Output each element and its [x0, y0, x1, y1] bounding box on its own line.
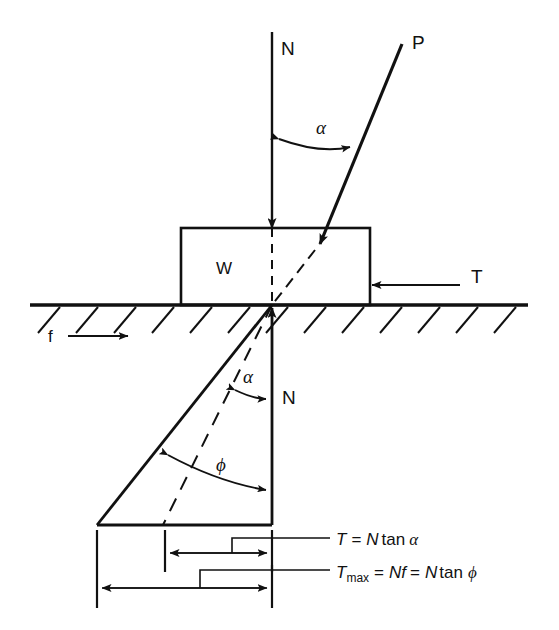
formula-Tmax-lhs-sub: max: [346, 571, 369, 585]
formula-Tmax-eq2: =: [410, 563, 420, 582]
formula-T-eq: =: [351, 530, 361, 549]
formula-tangential-max: Tmax=Nf=Ntanϕ: [336, 563, 477, 585]
force-diagram-figure: N P α W T f α N ϕ T=Ntanα Tmax=Nf=Ntanϕ: [0, 0, 559, 630]
formula-Tmax-rhs-fn: tan: [439, 563, 463, 582]
formula-T-rhs-fn: tan: [382, 530, 406, 549]
dimension-T-leader: [232, 538, 330, 553]
dimension-T: [165, 530, 330, 572]
alpha-arc-lower: [235, 390, 266, 399]
formula-T-lhs: T: [336, 530, 348, 549]
alpha-arc-top: [279, 139, 350, 149]
formula-Tmax-mid-sym: f: [401, 563, 408, 582]
sliding-block: [181, 228, 370, 305]
friction-cone-triangle: [97, 305, 272, 525]
formula-T-rhs-angle: α: [409, 530, 419, 549]
formula-T-rhs-var: N: [366, 530, 379, 549]
label-block-weight: W: [216, 259, 232, 278]
formula-Tmax-rhs-var: N: [425, 563, 438, 582]
ground-hatching: [38, 307, 516, 333]
formula-Tmax-mid-var: N: [389, 563, 402, 582]
diagram-canvas: N P α W T f α N ϕ T=Ntanα Tmax=Nf=Ntanϕ: [0, 0, 559, 630]
label-applied-force-P: P: [412, 32, 425, 53]
label-alpha-lower: α: [243, 366, 254, 387]
dimension-Tmax: [97, 530, 330, 608]
label-friction-f: f: [48, 327, 53, 346]
label-normal-force-lower: N: [282, 387, 296, 408]
applied-force-arrow-P: [320, 44, 402, 244]
label-alpha-top: α: [316, 117, 327, 138]
cone-hypotenuse: [97, 305, 272, 525]
label-normal-force-top: N: [281, 38, 295, 59]
ground-surface-group: [30, 305, 528, 333]
formula-tangential: T=Ntanα: [336, 530, 419, 549]
lower-dashed-P-direction: [163, 305, 272, 525]
label-phi-angle: ϕ: [216, 454, 226, 475]
formula-Tmax-rhs-angle: ϕ: [468, 563, 477, 582]
dimension-Tmax-leader: [200, 570, 330, 588]
label-tangential-force-T: T: [471, 266, 483, 287]
force-P-extension-dashed: [272, 250, 315, 305]
formula-Tmax-eq1: =: [374, 563, 384, 582]
